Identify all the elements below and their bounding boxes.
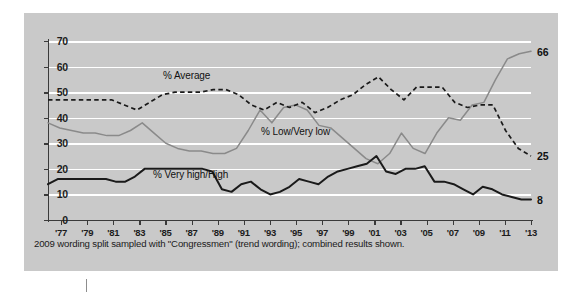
series-line-high: [48, 156, 531, 199]
x-axis-label: '03: [394, 227, 406, 238]
x-axis-label: '83: [133, 227, 145, 238]
x-axis-label: '85: [160, 227, 172, 238]
endpoint-label-low: 66: [537, 46, 549, 58]
x-axis-label: '89: [212, 227, 224, 238]
x-axis-label: '79: [81, 227, 93, 238]
x-axis-label: '97: [316, 227, 328, 238]
x-tick: [531, 221, 532, 225]
x-axis-label: '05: [421, 227, 433, 238]
chart-panel: 70 60 50 40 30 20 10 0: [24, 13, 558, 271]
chart-footnote: 2009 wording split sampled with "Congres…: [34, 238, 404, 249]
x-axis-label: '93: [264, 227, 276, 238]
x-axis-label: '81: [107, 227, 119, 238]
endpoint-label-average: 25: [537, 150, 549, 162]
series-label-average: % Average: [163, 70, 210, 81]
x-axis-label: '95: [290, 227, 302, 238]
x-axis-label: '87: [186, 227, 198, 238]
endpoint-label-high: 8: [537, 194, 543, 206]
series-line-average: [48, 77, 531, 156]
x-axis-label: '91: [238, 227, 250, 238]
x-axis-label: '99: [342, 227, 354, 238]
series-label-high: % Very high/High: [153, 169, 228, 180]
x-axis-label: '13: [525, 227, 537, 238]
plot-area: 70 60 50 40 30 20 10 0: [48, 41, 531, 220]
x-axis-label: '01: [368, 227, 380, 238]
series-label-low: % Low/Very low: [261, 126, 330, 137]
x-axis-label: '11: [499, 227, 510, 238]
chart-root: 70 60 50 40 30 20 10 0: [0, 0, 581, 298]
x-axis-label: '77: [55, 227, 67, 238]
x-axis-label: '09: [473, 227, 485, 238]
bottom-tick-mark: [86, 279, 87, 292]
x-axis-label: '07: [447, 227, 459, 238]
